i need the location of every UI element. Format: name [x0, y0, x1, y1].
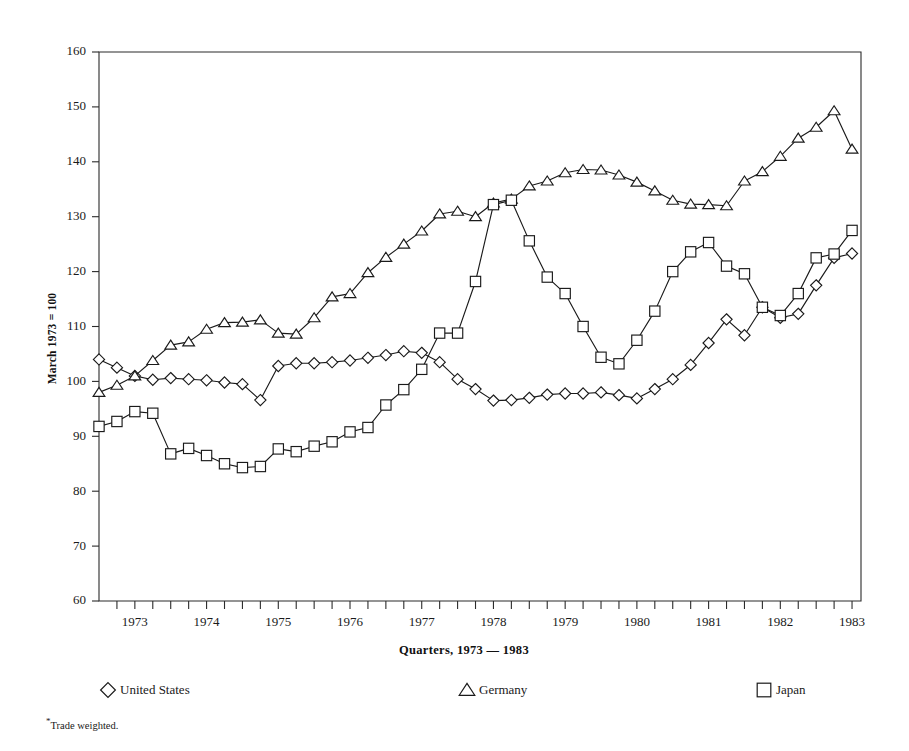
- y-tick-label: 70: [73, 538, 86, 553]
- legend-label: Japan: [776, 682, 806, 697]
- legend-label: United States: [120, 682, 190, 697]
- data-point-square: [130, 406, 140, 416]
- line-chart: 60708090100110120130140150160 1973197419…: [0, 0, 909, 751]
- y-tick-label: 80: [73, 483, 86, 498]
- data-point-square: [488, 199, 498, 209]
- data-point-square: [201, 450, 211, 460]
- data-point-square: [721, 261, 731, 271]
- data-point-square: [668, 266, 678, 276]
- y-tick-label: 110: [67, 318, 86, 333]
- figure-container: 60708090100110120130140150160 1973197419…: [0, 0, 909, 751]
- y-tick-label: 140: [67, 153, 87, 168]
- data-point-square: [506, 195, 516, 205]
- legend-item-japan[interactable]: Japan: [757, 682, 806, 697]
- x-tick-label: 1974: [194, 614, 221, 629]
- data-point-square: [650, 306, 660, 316]
- x-tick-label: 1981: [696, 614, 722, 629]
- data-point-square: [417, 364, 427, 374]
- data-point-square: [811, 253, 821, 263]
- data-point-square: [686, 247, 696, 257]
- data-point-square: [775, 310, 785, 320]
- data-point-square: [793, 288, 803, 298]
- data-point-square: [255, 461, 265, 471]
- x-tick-label: 1983: [839, 614, 865, 629]
- data-point-square: [381, 400, 391, 410]
- data-point-square: [327, 437, 337, 447]
- y-tick-label: 90: [73, 428, 86, 443]
- footnote: *Trade weighted.: [46, 716, 118, 731]
- x-tick-label: 1978: [480, 614, 506, 629]
- y-axis-title: March 1973 = 100: [46, 293, 58, 385]
- x-tick-label: 1973: [122, 614, 148, 629]
- data-point-square: [470, 276, 480, 286]
- data-point-square: [291, 447, 301, 457]
- y-tick-label: 160: [67, 43, 87, 58]
- x-tick-label: 1976: [337, 614, 364, 629]
- data-point-square: [399, 384, 409, 394]
- y-tick-label: 60: [73, 592, 86, 607]
- x-tick-label: 1980: [624, 614, 650, 629]
- legend-label: Germany: [479, 682, 528, 697]
- data-point-square: [435, 328, 445, 338]
- x-tick-label: 1982: [767, 614, 793, 629]
- data-point-square: [148, 408, 158, 418]
- x-tick-label: 1977: [409, 614, 436, 629]
- x-axis-title: Quarters, 1973 — 1983: [399, 643, 529, 657]
- x-tick-label: 1975: [265, 614, 291, 629]
- data-point-square: [345, 427, 355, 437]
- data-point-square: [560, 288, 570, 298]
- data-point-square: [219, 459, 229, 469]
- data-point-square: [94, 421, 104, 431]
- data-point-square: [829, 249, 839, 259]
- data-point-square: [596, 352, 606, 362]
- data-point-square: [703, 237, 713, 247]
- data-point-square: [757, 302, 767, 312]
- x-tick-label: 1979: [552, 614, 578, 629]
- legend-marker-square: [757, 683, 771, 697]
- data-point-square: [309, 441, 319, 451]
- data-point-square: [363, 422, 373, 432]
- data-point-square: [847, 225, 857, 235]
- data-point-square: [112, 416, 122, 426]
- data-point-square: [452, 328, 462, 338]
- y-tick-label: 130: [67, 208, 87, 223]
- y-tick-label: 100: [67, 373, 87, 388]
- data-point-square: [166, 449, 176, 459]
- data-point-square: [739, 269, 749, 279]
- data-point-square: [237, 462, 247, 472]
- y-tick-label: 150: [67, 98, 87, 113]
- data-point-square: [632, 335, 642, 345]
- data-point-square: [183, 443, 193, 453]
- data-point-square: [578, 321, 588, 331]
- data-point-square: [524, 236, 534, 246]
- data-point-square: [542, 272, 552, 282]
- y-tick-label: 120: [67, 263, 87, 278]
- data-point-square: [614, 359, 624, 369]
- footnote-text: Trade weighted.: [51, 720, 119, 731]
- data-point-square: [273, 444, 283, 454]
